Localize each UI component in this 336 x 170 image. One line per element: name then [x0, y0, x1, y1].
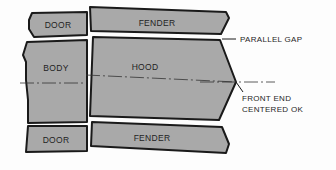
callout-front-end-line1: FRONT END — [242, 94, 291, 103]
panel-door-top: DOOR — [29, 12, 87, 37]
diagram-canvas: DOOR FENDER BODY HOOD DOOR FENDER PARALL… — [0, 0, 336, 170]
door-top-label: DOOR — [45, 20, 72, 30]
callout-parallel-gap: PARALLEL GAP — [240, 35, 302, 44]
leader-front-end — [236, 82, 243, 92]
body-label: BODY — [43, 63, 68, 73]
hood-label: HOOD — [132, 62, 159, 72]
callout-front-end-line2: CENTERED OK — [242, 105, 303, 114]
fender-bottom-label: FENDER — [134, 133, 171, 143]
panel-door-bottom: DOOR — [26, 126, 87, 152]
panel-fender-bottom: FENDER — [91, 122, 229, 153]
door-bottom-label: DOOR — [43, 135, 70, 145]
panel-body: BODY — [23, 40, 87, 123]
fender-top-label: FENDER — [139, 18, 176, 28]
panel-fender-top: FENDER — [90, 7, 229, 34]
panel-alignment-diagram: DOOR FENDER BODY HOOD DOOR FENDER PARALL… — [0, 0, 336, 170]
